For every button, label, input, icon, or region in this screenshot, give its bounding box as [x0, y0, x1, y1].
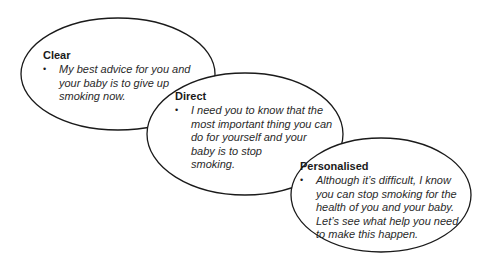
- bubble-personalised-bullet-item: • Although it’s difficult, I know you ca…: [300, 174, 458, 241]
- bubble-personalised-text: Although it’s difficult, I know you can …: [316, 174, 458, 241]
- text-line: My best advice for you and: [59, 63, 190, 76]
- bubble-clear: Clear • My best advice for you and your …: [43, 49, 190, 104]
- bubble-personalised: Personalised • Although it’s difficult, …: [300, 160, 458, 241]
- text-line: baby is to stop: [191, 145, 332, 158]
- text-line: health of you and your baby.: [316, 201, 458, 214]
- bubble-direct-title: Direct: [175, 90, 332, 103]
- bullet-icon: •: [175, 104, 191, 171]
- text-line: Let’s see what help you need: [316, 215, 458, 228]
- bubble-clear-title: Clear: [43, 49, 190, 62]
- text-line: Although it’s difficult, I know: [316, 174, 458, 187]
- bullet-icon: •: [43, 63, 59, 103]
- bubble-personalised-title: Personalised: [300, 160, 458, 173]
- text-line: your baby is to give up: [59, 77, 190, 90]
- bullet-icon: •: [300, 174, 316, 241]
- text-line: most important thing you can: [191, 118, 332, 131]
- text-line: to make this happen.: [316, 228, 458, 241]
- text-line: do for yourself and your: [191, 131, 332, 144]
- bubble-clear-text: My best advice for you and your baby is …: [59, 63, 190, 103]
- bubble-clear-bullet-item: • My best advice for you and your baby i…: [43, 63, 190, 103]
- text-line: you can stop smoking for the: [316, 188, 458, 201]
- text-line: I need you to know that the: [191, 104, 332, 117]
- text-line: smoking now.: [59, 90, 190, 103]
